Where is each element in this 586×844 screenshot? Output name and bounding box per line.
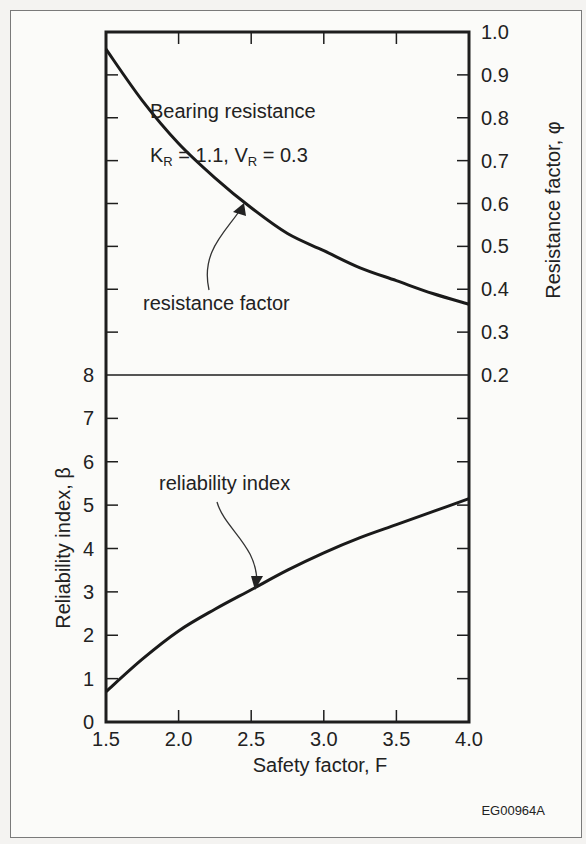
beta-tick-label: 2 xyxy=(83,624,94,646)
phi-tick-label: 0.3 xyxy=(481,321,509,343)
plot-axes xyxy=(106,32,469,722)
x-tick-label: 2.0 xyxy=(165,728,193,750)
resistance-curve-label: resistance factor xyxy=(143,292,290,314)
x-tick-label: 2.5 xyxy=(237,728,265,750)
reliability-curve-label: reliability index xyxy=(159,472,290,494)
beta-tick-label: 7 xyxy=(83,407,94,429)
beta-tick-label: 4 xyxy=(83,538,94,560)
phi-tick-label: 0.8 xyxy=(481,107,509,129)
beta-tick-label: 0 xyxy=(83,711,94,733)
annotation-title: Bearing resistance xyxy=(150,100,316,122)
left-y-axis-title: Reliability index, β xyxy=(52,467,74,629)
resistance-factor-curve xyxy=(106,49,469,304)
phi-tick-label: 0.6 xyxy=(481,193,509,215)
resistance-arrowhead-icon xyxy=(233,203,246,216)
x-tick-label: 3.0 xyxy=(310,728,338,750)
reliability-pointer-arrow xyxy=(217,502,257,585)
x-tick-label: 1.5 xyxy=(92,728,120,750)
right-y-axis-title: Resistance factor, φ xyxy=(542,121,564,299)
phi-tick-label: 0.2 xyxy=(481,364,509,386)
resistance-pointer-arrow xyxy=(207,207,242,290)
reliability-index-curve xyxy=(106,499,469,692)
beta-tick-label: 3 xyxy=(83,581,94,603)
figure-id: EG00964A xyxy=(481,803,545,818)
phi-tick-label: 0.4 xyxy=(481,278,509,300)
phi-tick-label: 0.7 xyxy=(481,150,509,172)
x-tick-label: 4.0 xyxy=(455,728,483,750)
x-axis-title: Safety factor, F xyxy=(253,754,388,776)
plot-border xyxy=(106,32,469,722)
phi-tick-label: 1.0 xyxy=(481,21,509,43)
chart-canvas: 1.52.02.53.03.54.00.20.30.40.50.60.70.80… xyxy=(0,0,586,844)
beta-tick-label: 1 xyxy=(83,668,94,690)
x-tick-label: 3.5 xyxy=(382,728,410,750)
tick-labels: 1.52.02.53.03.54.00.20.30.40.50.60.70.80… xyxy=(83,21,509,750)
beta-tick-label: 6 xyxy=(83,451,94,473)
beta-tick-label: 5 xyxy=(83,494,94,516)
phi-tick-label: 0.5 xyxy=(481,235,509,257)
annotation-params: KR = 1.1, VR = 0.3 xyxy=(150,144,308,169)
phi-tick-label: 0.9 xyxy=(481,64,509,86)
beta-tick-label: 8 xyxy=(83,364,94,386)
